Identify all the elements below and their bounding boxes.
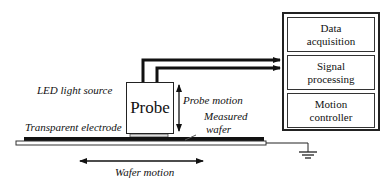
probe-motion-label: Probe motion xyxy=(183,94,243,106)
probe-box: Probe xyxy=(126,82,174,134)
probe-tip xyxy=(130,134,168,137)
block-line: Signal xyxy=(307,60,354,73)
block-line: Motion xyxy=(310,98,353,111)
led-light-source-label: LED light source xyxy=(37,84,112,96)
measured-wafer-label-2: wafer xyxy=(206,123,231,135)
probe-label: Probe xyxy=(130,98,170,118)
signal-processing-block: Signalprocessing xyxy=(287,55,375,90)
block-line: controller xyxy=(310,111,353,124)
signal-cable-1 xyxy=(143,60,280,82)
transparent-electrode-label: Transparent electrode xyxy=(25,121,122,133)
block-line: processing xyxy=(307,73,354,86)
measured-wafer-label-1: Measured xyxy=(204,110,248,122)
wafer-motion-label: Wafer motion xyxy=(115,166,174,178)
signal-cable-2 xyxy=(157,68,280,82)
controller-unit: Dataacquisition Signalprocessing Motionc… xyxy=(282,12,380,131)
block-line: acquisition xyxy=(307,35,355,48)
measured-wafer xyxy=(24,137,264,141)
transparent-electrode xyxy=(16,141,266,145)
block-line: Data xyxy=(307,22,355,35)
ground-wire xyxy=(266,143,308,152)
data-acquisition-block: Dataacquisition xyxy=(287,17,375,52)
motion-controller-block: Motioncontroller xyxy=(287,93,375,128)
